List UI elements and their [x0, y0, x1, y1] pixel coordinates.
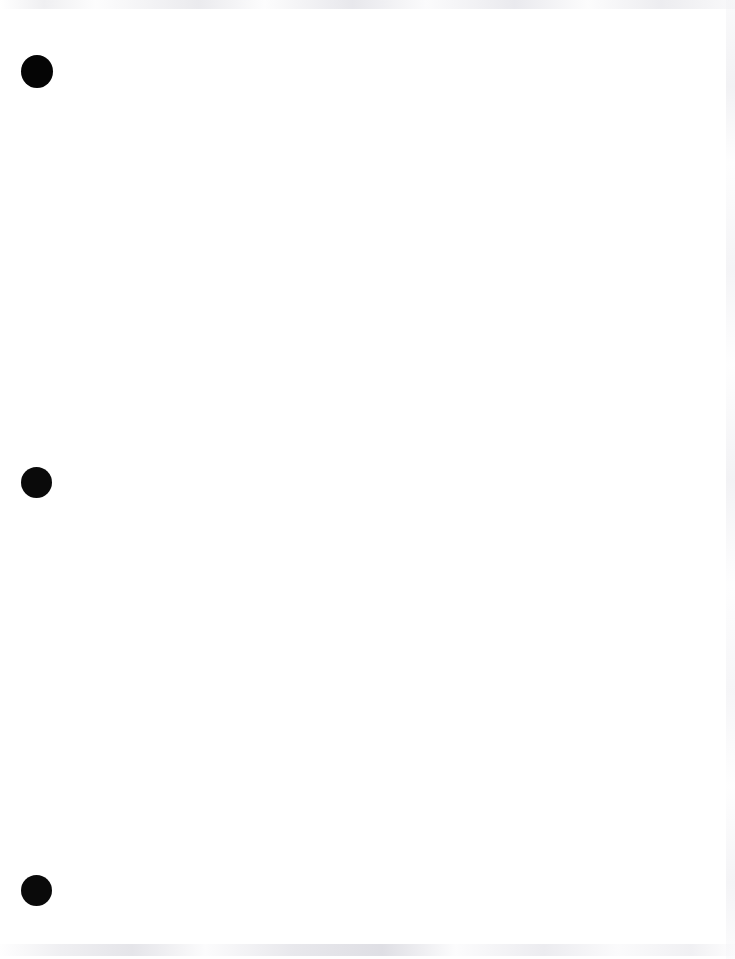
- punch-hole-middle-icon: [21, 467, 52, 498]
- scan-noise-right-icon: [726, 0, 735, 959]
- punch-hole-bottom-icon: [21, 875, 52, 906]
- punch-hole-top-icon: [21, 55, 53, 88]
- scan-noise-bottom-icon: [0, 944, 735, 956]
- scan-noise-top-icon: [0, 0, 735, 9]
- scanned-page: [0, 0, 735, 959]
- page-body: [70, 30, 715, 929]
